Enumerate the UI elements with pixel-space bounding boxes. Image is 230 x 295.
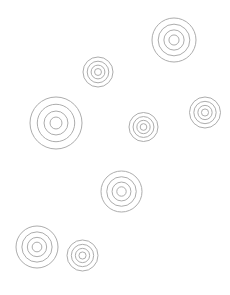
target-canvas [0, 0, 230, 295]
targets-svg [0, 0, 230, 295]
